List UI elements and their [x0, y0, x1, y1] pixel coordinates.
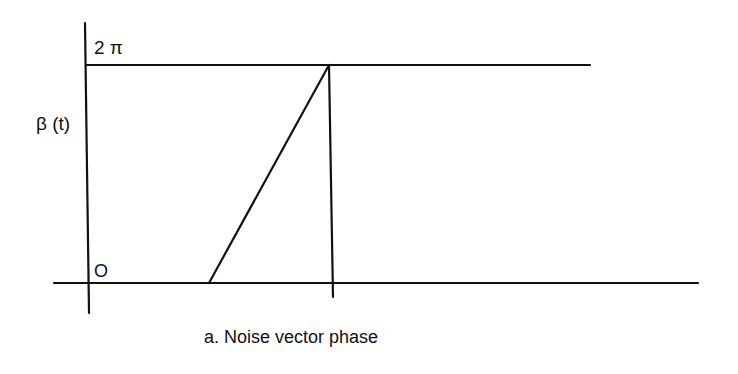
origin-label: O: [94, 262, 108, 280]
y-max-label: 2 π: [94, 38, 123, 57]
phase-ramp-line: [209, 65, 329, 283]
figure-caption: a. Noise vector phase: [204, 328, 378, 346]
y-axis-label: β (t): [36, 114, 70, 133]
y-axis: [85, 23, 89, 313]
phase-reset-vertical-line: [329, 65, 333, 297]
